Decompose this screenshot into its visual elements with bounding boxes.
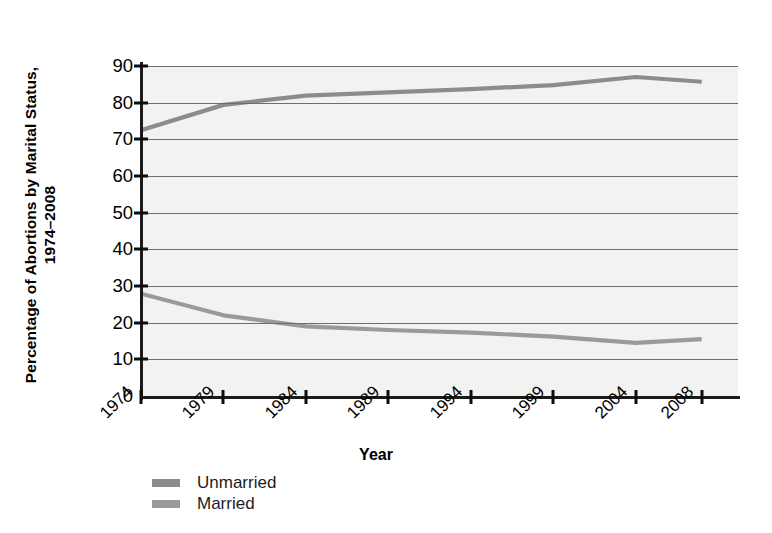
x-axis-tick-mark: [140, 390, 143, 404]
gridline: [141, 176, 738, 177]
gridline: [141, 249, 738, 250]
y-axis-tick-mark: [134, 358, 148, 361]
chart-figure: Percentage of Abortions by Marital Statu…: [0, 0, 772, 533]
gridline: [141, 213, 738, 214]
x-axis-title: Year: [0, 446, 772, 464]
x-axis-tick-mark: [634, 390, 637, 404]
gridline: [141, 66, 738, 67]
y-axis-tick-mark: [134, 138, 148, 141]
y-axis-tick-mark: [134, 175, 148, 178]
x-axis-tick-mark: [387, 390, 390, 404]
plot-area: [141, 66, 738, 396]
y-axis-tick-label: 60: [93, 165, 133, 187]
series-lines: [141, 66, 738, 396]
x-axis-tick-mark: [469, 390, 472, 404]
y-axis-tick-label: 40: [93, 238, 133, 260]
legend-item: Unmarried: [152, 472, 276, 493]
y-axis-line: [140, 62, 143, 400]
x-axis-title-text: Year: [359, 446, 393, 464]
y-axis-tick-mark: [134, 65, 148, 68]
legend: UnmarriedMarried: [152, 472, 276, 514]
y-axis-tick-mark: [134, 321, 148, 324]
y-axis-tick-label: 50: [93, 202, 133, 224]
y-axis-tick-label: 90: [93, 55, 133, 77]
legend-label: Unmarried: [197, 473, 276, 493]
y-axis-tick-mark: [134, 211, 148, 214]
gridline: [141, 139, 738, 140]
y-axis-tick-label: 20: [93, 312, 133, 334]
x-axis-tick-mark: [552, 390, 555, 404]
gridline: [141, 286, 738, 287]
x-axis-tick-mark: [222, 390, 225, 404]
x-axis-tick-mark: [700, 390, 703, 404]
legend-label: Married: [197, 494, 255, 514]
y-axis-tick-mark: [134, 285, 148, 288]
series-line-married: [141, 294, 702, 343]
y-axis-tick-label: 80: [93, 92, 133, 114]
legend-item: Married: [152, 493, 276, 514]
y-axis-tick-label: 70: [93, 128, 133, 150]
y-axis-tick-label: 10: [93, 348, 133, 370]
legend-swatch-icon: [152, 500, 180, 508]
y-axis-tick-mark: [134, 248, 148, 251]
x-axis-tick-mark: [304, 390, 307, 404]
gridline: [141, 103, 738, 104]
y-axis-title-line1: Percentage of Abortions by Marital Statu…: [22, 67, 39, 383]
y-axis-tick-mark: [134, 101, 148, 104]
y-axis-tick-label: 30: [93, 275, 133, 297]
gridline: [141, 323, 738, 324]
legend-swatch-icon: [152, 479, 180, 487]
gridline: [141, 359, 738, 360]
